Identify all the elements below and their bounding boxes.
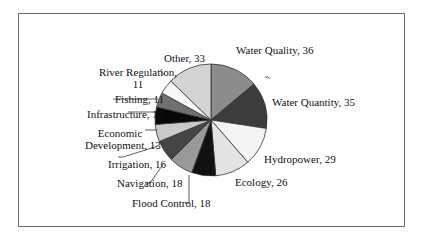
label-other: Other, 33 (164, 52, 205, 64)
label-econ-line1: Economic (85, 127, 155, 139)
label-economic-development: Economic Development, 13 (85, 127, 155, 151)
leader-water-quantity (265, 77, 270, 79)
label-flood-control: Flood Control, 18 (132, 197, 211, 209)
label-hydropower: Hydropower, 29 (264, 153, 336, 165)
pie-chart (0, 0, 424, 240)
label-fishing: Fishing, 11 (115, 93, 164, 105)
label-navigation: Navigation, 18 (117, 177, 182, 189)
label-ecology: Ecology, 26 (235, 176, 287, 188)
label-river-regulation: River Regulation, 11 (93, 66, 183, 90)
label-river-line1: River Regulation, (93, 66, 183, 78)
label-water-quality: Water Quality, 36 (236, 44, 314, 56)
label-econ-line2: Development, 13 (85, 139, 155, 151)
label-irrigation: Irrigation, 16 (108, 158, 166, 170)
label-infrastructure: Infrastructure, 13 (87, 108, 163, 120)
label-river-line2: 11 (93, 78, 183, 90)
label-water-quantity: Water Quantity, 35 (272, 96, 355, 108)
